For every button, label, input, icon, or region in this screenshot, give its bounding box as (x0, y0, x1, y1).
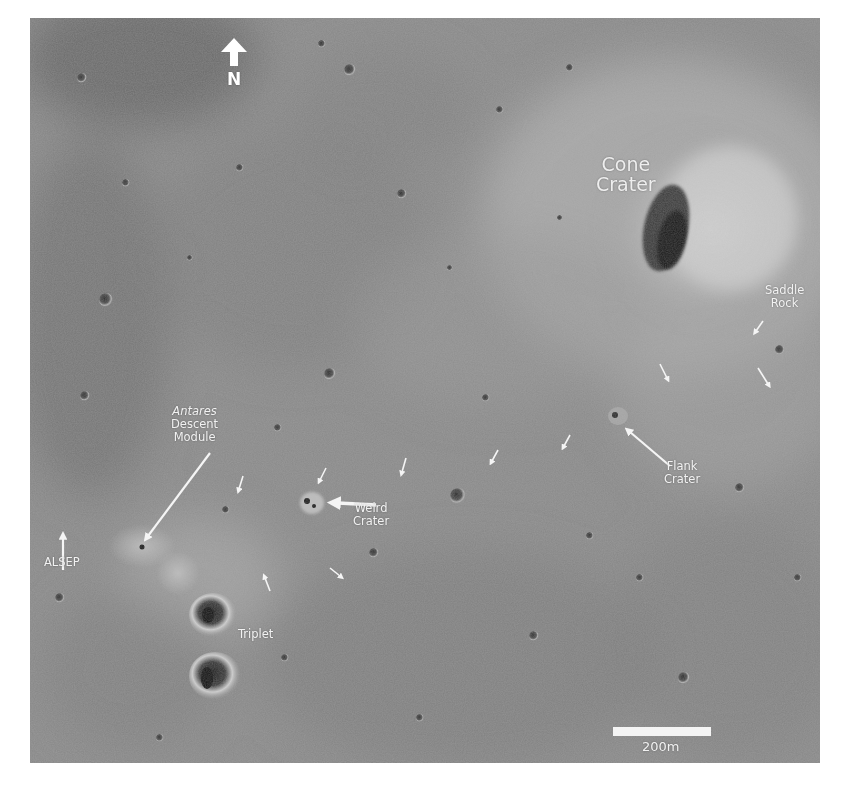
lunar-surface-photo: N Cone Crater Saddle Rock Antares Descen… (30, 18, 820, 763)
triplet-label: Triplet (238, 628, 273, 641)
flank-crater-label: Flank Crater (664, 460, 700, 486)
saddle-rock-label: Saddle Rock (765, 284, 804, 310)
scale-bar-label: 200m (642, 740, 679, 755)
scale-bar (613, 727, 711, 736)
antares-descent-module-label: Antares Descent Module (171, 405, 218, 445)
weird-crater-label: Weird Crater (353, 502, 389, 528)
lunar-terrain (30, 18, 820, 763)
north-label: N (227, 70, 241, 90)
alsep-label: ALSEP (44, 556, 80, 569)
cone-crater-label: Cone Crater (596, 155, 656, 195)
